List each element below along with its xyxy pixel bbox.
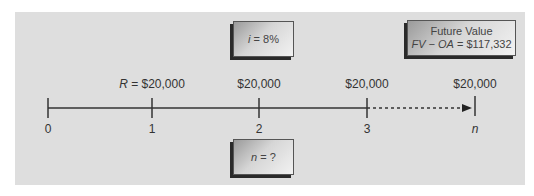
period-label-0: 0 (45, 122, 52, 136)
arrowhead-icon (462, 104, 472, 112)
period-label-3: 3 (364, 122, 371, 136)
interest-rate-box: i = 8% (233, 21, 294, 57)
unknown-periods-box: n = ? (233, 139, 294, 175)
future-value-title: Future Value (430, 25, 492, 38)
period-label-2: 2 (256, 122, 263, 136)
future-value-amount: $117,332 (466, 38, 511, 50)
payment-label-3: $20,000 (345, 77, 388, 91)
period-label-n: n (472, 122, 479, 136)
payment-label-2: $20,000 (237, 77, 280, 91)
future-value-expression: FV − OA (411, 38, 454, 50)
rate-value: 8% (263, 33, 279, 45)
payment-label-1: R = $20,000 (119, 77, 185, 91)
periods-value: ? (270, 151, 276, 163)
future-value-box: Future Value FV − OA = $117,332 (407, 20, 516, 56)
period-label-1: 1 (149, 122, 156, 136)
payment-label-n: $20,000 (453, 77, 496, 91)
